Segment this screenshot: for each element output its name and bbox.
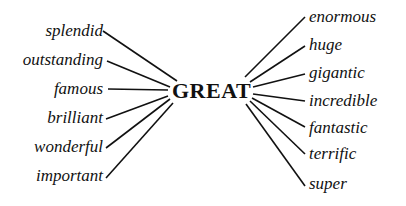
connector-famous	[108, 89, 168, 90]
left-word-important: important	[36, 167, 103, 184]
right-word-gigantic: gigantic	[309, 64, 365, 81]
connector-enormous	[245, 17, 305, 77]
connector-terrific	[250, 101, 305, 154]
right-word-terrific: terrific	[309, 145, 356, 162]
connector-incredible	[253, 94, 305, 101]
right-word-enormous: enormous	[309, 8, 376, 25]
left-word-wonderful: wonderful	[34, 138, 103, 155]
connector-splendid	[103, 31, 177, 81]
left-word-brilliant: brilliant	[47, 109, 103, 126]
right-word-huge: huge	[309, 36, 342, 53]
left-word-outstanding: outstanding	[23, 51, 103, 68]
connector-outstanding	[107, 61, 170, 87]
left-word-famous: famous	[54, 80, 103, 97]
center-word: GREAT	[172, 80, 251, 102]
connector-gigantic	[253, 74, 305, 87]
right-word-incredible: incredible	[309, 92, 377, 109]
right-word-super: super	[309, 175, 347, 192]
left-word-splendid: splendid	[45, 22, 103, 39]
right-word-fantastic: fantastic	[309, 119, 368, 136]
